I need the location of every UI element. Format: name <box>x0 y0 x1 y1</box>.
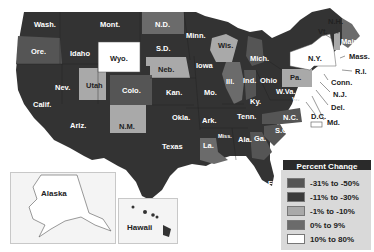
legend-swatch <box>287 192 305 202</box>
label-sd: S.D. <box>156 44 171 53</box>
label-mass: Mass. <box>349 52 370 61</box>
label-nj: N.J. <box>333 90 347 99</box>
label-iowa: Iowa <box>196 61 213 70</box>
legend-swatch <box>287 178 305 188</box>
legend-label: -31% to -50% <box>310 179 359 188</box>
legend-row: -11% to -30% <box>287 192 359 202</box>
label-wash: Wash. <box>34 20 56 29</box>
legend: -31% to -50% -11% to -30% -1% to -10% 0%… <box>281 170 371 250</box>
label-colo: Colo. <box>122 86 141 95</box>
label-idaho: Idaho <box>70 49 90 58</box>
label-nev: Nev. <box>55 83 70 92</box>
label-ga: Ga. <box>254 134 266 143</box>
legend-label: -1% to -10% <box>310 207 355 216</box>
legend-label: 10% to 80% <box>310 235 354 244</box>
label-nc: N.C. <box>283 113 298 122</box>
legend-swatch <box>287 234 305 244</box>
label-ill: Ill. <box>226 77 234 86</box>
label-fla: Fla. <box>268 179 281 188</box>
label-wis: Wis. <box>218 41 233 50</box>
legend-swatch <box>287 206 305 216</box>
label-ky: Ky. <box>250 97 261 106</box>
label-kan: Kan. <box>166 88 182 97</box>
label-del: Del. <box>331 103 345 112</box>
hawaii-label: Hawaii <box>127 223 152 232</box>
hawaii-shape <box>119 199 177 243</box>
legend-row: 10% to 80% <box>287 234 354 244</box>
legend-label: 0% to 9% <box>310 221 345 230</box>
label-ore: Ore. <box>31 47 46 56</box>
label-md: Md. <box>327 118 340 127</box>
label-maine: Maine <box>341 37 362 46</box>
label-nm: N.M. <box>119 122 135 131</box>
alaska-label: Alaska <box>41 189 67 198</box>
label-ny: N.Y. <box>308 54 322 63</box>
label-ri: R.I. <box>355 67 367 76</box>
label-sc: S.C. <box>275 126 290 135</box>
label-miss: Miss. <box>218 133 232 139</box>
legend-row: -31% to -50% <box>287 178 359 188</box>
label-conn: Conn. <box>331 78 352 87</box>
state-ind[interactable] <box>244 70 256 100</box>
label-pa: Pa. <box>290 73 301 82</box>
label-mont: Mont. <box>100 20 120 29</box>
label-va: Va. <box>292 95 303 104</box>
label-nh: N.H. <box>328 17 343 26</box>
legend-row: -1% to -10% <box>287 206 355 216</box>
legend-row: 0% to 9% <box>287 220 345 230</box>
label-la: La. <box>203 141 214 150</box>
label-calif: Calif. <box>33 100 51 109</box>
label-okla: Okla. <box>172 113 190 122</box>
label-texas: Texas <box>162 142 183 151</box>
label-minn: Minn. <box>186 31 206 40</box>
label-ark: Ark. <box>202 116 217 125</box>
label-mich: Mich. <box>250 54 269 63</box>
state-vt[interactable] <box>334 32 340 50</box>
alaska-inset: Alaska <box>10 172 116 244</box>
label-ariz: Ariz. <box>70 121 86 130</box>
label-nd: N.D. <box>155 20 170 29</box>
alaska-shape <box>11 173 115 243</box>
label-tenn: Tenn. <box>237 112 256 121</box>
label-wyo: Wyo. <box>110 54 128 63</box>
label-mo: Mo. <box>204 88 217 97</box>
label-neb: Neb. <box>158 65 174 74</box>
legend-swatch <box>287 220 305 230</box>
label-vt: Vt. <box>318 27 328 36</box>
label-utah: Utah <box>86 81 103 90</box>
hawaii-inset: Hawaii <box>118 198 178 244</box>
label-wva: W.Va. <box>276 87 296 96</box>
label-ind: Ind. <box>243 76 256 85</box>
label-ala: Ala. <box>238 135 252 144</box>
legend-label: -11% to -30% <box>310 193 359 202</box>
label-ohio: Ohio <box>260 76 277 85</box>
state-dc[interactable] <box>311 122 322 127</box>
